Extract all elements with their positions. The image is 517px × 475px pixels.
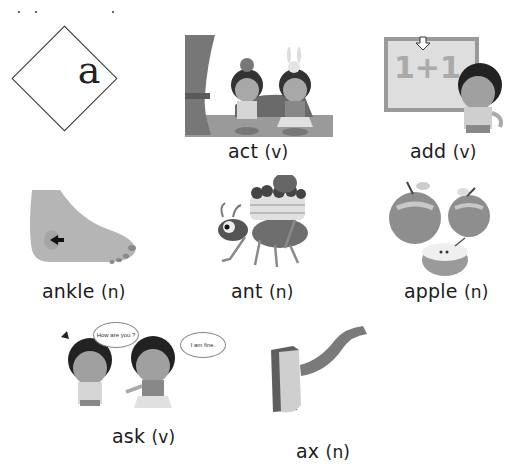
entry-label-apple: apple (n)	[404, 280, 489, 302]
ankle-illustration	[20, 190, 140, 270]
entry-label-add: add (v)	[410, 140, 477, 162]
entry-label-ant: ant (n)	[231, 280, 294, 302]
entry-part-of-speech: (v)	[453, 142, 477, 162]
entry-part-of-speech: (n)	[101, 282, 126, 302]
entry-word: ant	[231, 280, 263, 302]
entry-label-act: act (v)	[228, 140, 288, 162]
top-edge-artifact	[0, 0, 517, 4]
entry-label-ax: ax (n)	[296, 440, 350, 462]
entry-part-of-speech: (n)	[464, 282, 489, 302]
entry-word: ankle	[42, 280, 95, 302]
ax-illustration	[265, 320, 375, 420]
arrow-icon	[54, 324, 69, 339]
apple-illustration	[385, 180, 505, 280]
entry-part-of-speech: (n)	[326, 442, 351, 462]
header-letter: a	[40, 48, 138, 92]
speech-bubble-answer: I am fine.	[180, 332, 226, 358]
entry-label-ankle: ankle (n)	[42, 280, 126, 302]
entry-part-of-speech: (v)	[264, 142, 288, 162]
ant-illustration	[205, 175, 315, 275]
svg-text:1+1: 1+1	[394, 50, 461, 85]
entry-word: add	[410, 140, 446, 162]
entry-word: ax	[296, 440, 319, 462]
entry-word: ask	[112, 425, 145, 447]
entry-word: apple	[404, 280, 458, 302]
speech-bubble-question: How are you ?	[93, 322, 139, 348]
add-illustration: 1+1	[382, 33, 517, 143]
act-illustration	[185, 35, 335, 140]
entry-part-of-speech: (v)	[151, 427, 175, 447]
entry-label-ask: ask (v)	[112, 425, 175, 447]
entry-part-of-speech: (n)	[269, 282, 294, 302]
entry-word: act	[228, 140, 258, 162]
